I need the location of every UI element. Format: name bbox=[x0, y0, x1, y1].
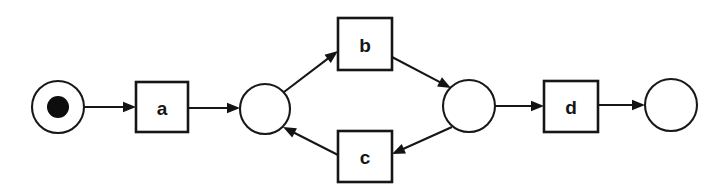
place-start[interactable] bbox=[32, 81, 84, 133]
arc-place-start-to-a bbox=[85, 102, 136, 112]
arc-a-to-place-split bbox=[188, 103, 240, 113]
transitions-layer: abcd bbox=[136, 18, 598, 182]
transition-d-label: d bbox=[565, 97, 577, 118]
arc-place-join-to-d bbox=[495, 101, 544, 111]
transition-d[interactable]: d bbox=[544, 81, 598, 132]
arc-b-to-place-join bbox=[392, 57, 451, 88]
arc-b-to-place-join-arrowhead-icon bbox=[437, 77, 451, 88]
arc-place-split-to-b-arrowhead-icon bbox=[325, 51, 338, 63]
transition-c-label: c bbox=[360, 147, 371, 168]
arc-place-start-to-a-arrowhead-icon bbox=[123, 102, 136, 112]
transition-b[interactable]: b bbox=[338, 18, 392, 70]
transition-c[interactable]: c bbox=[338, 131, 392, 182]
arc-place-join-to-c bbox=[392, 127, 452, 154]
arc-place-join-to-c-arrowhead-icon bbox=[392, 144, 406, 154]
arc-place-split-to-b-line bbox=[284, 58, 329, 92]
diagram-canvas: abcd bbox=[0, 0, 728, 195]
arc-d-to-place-end bbox=[598, 100, 645, 110]
place-split[interactable] bbox=[240, 84, 290, 134]
place-start-token-dot-icon bbox=[47, 96, 69, 118]
arc-place-join-to-d-arrowhead-icon bbox=[531, 101, 544, 111]
arc-place-split-to-b bbox=[284, 51, 338, 92]
arc-c-to-place-split bbox=[283, 127, 338, 155]
transition-a-label: a bbox=[157, 98, 168, 119]
place-split-circle bbox=[240, 84, 290, 134]
place-join-circle bbox=[443, 80, 495, 132]
transition-b-label: b bbox=[359, 35, 371, 56]
arc-b-to-place-join-line bbox=[392, 57, 441, 83]
place-join[interactable] bbox=[443, 80, 495, 132]
arc-c-to-place-split-line bbox=[293, 132, 338, 155]
transition-a[interactable]: a bbox=[136, 82, 188, 132]
arc-d-to-place-end-arrowhead-icon bbox=[632, 100, 645, 110]
place-end-circle bbox=[645, 79, 697, 131]
place-end[interactable] bbox=[645, 79, 697, 131]
petri-net-diagram: abcd bbox=[0, 0, 728, 195]
arc-a-to-place-split-arrowhead-icon bbox=[227, 103, 240, 113]
arc-place-join-to-c-line bbox=[402, 127, 452, 149]
arc-c-to-place-split-arrowhead-icon bbox=[283, 127, 297, 138]
